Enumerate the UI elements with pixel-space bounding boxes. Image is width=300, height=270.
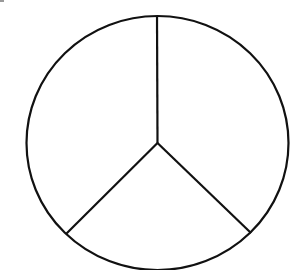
radius-top	[157, 16, 158, 143]
pie-diagram	[0, 0, 300, 270]
